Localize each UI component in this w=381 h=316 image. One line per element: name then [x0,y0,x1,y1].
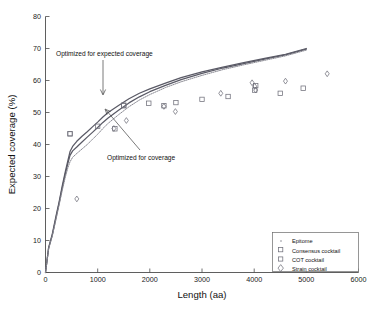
diamond-marker [75,196,79,202]
annotation-label: Optimized for coverage [107,154,175,162]
square-marker [174,100,178,104]
x-tick-label: 5000 [298,275,314,284]
scatter-plot: 0 10 20 30 40 50 60 70 80 0 1000 [0,0,381,316]
diamond-marker [219,90,223,96]
x-tick-label: 1000 [90,275,106,284]
y-axis-ticks: 0 10 20 30 40 50 60 70 80 [33,12,50,277]
diamond-marker [173,109,177,115]
legend[interactable]: Epitome Consensus cocktail COT cocktail … [273,233,359,273]
x-axis-title: Length (aa) [177,289,226,300]
x-tick-label: 6000 [351,275,367,284]
square-marker [301,86,305,90]
x-tick-label: 2000 [142,275,158,284]
markers-strain-cocktail [75,71,329,202]
chart-figure: 0 10 20 30 40 50 60 70 80 0 1000 [0,0,381,316]
legend-label: Strain cocktail [292,266,327,272]
curve-optimized-for-coverage [46,49,307,272]
square-marker [226,94,230,98]
x-tick-label: 4000 [246,275,262,284]
diamond-marker [283,78,287,84]
y-tick-label: 20 [33,204,41,213]
y-tick-label: 60 [33,76,41,85]
y-tick-label: 70 [33,44,41,53]
y-axis-title: Expected coverage (%) [6,95,17,195]
x-tick-label: 0 [44,275,48,284]
legend-label: Consensus cocktail [292,248,340,254]
diamond-marker [325,71,329,77]
y-tick-label: 10 [33,236,41,245]
square-marker [147,101,151,105]
y-tick-label: 40 [33,140,41,149]
x-tick-label: 3000 [194,275,210,284]
legend-label: COT cocktail [292,257,324,263]
y-tick-label: 50 [33,108,41,117]
square-marker [200,97,204,101]
dot-icon [280,240,281,241]
y-tick-label: 0 [37,268,41,277]
y-tick-label: 30 [33,172,41,181]
annotation-expected-coverage: Optimized for expected coverage [56,50,153,95]
legend-label: Epitome [292,238,313,244]
diamond-marker [162,104,166,110]
square-marker [278,91,282,95]
y-tick-label: 80 [33,12,41,21]
diamond-marker [124,118,128,124]
annotation-label: Optimized for expected coverage [56,50,153,58]
curve-epitome [46,50,307,272]
